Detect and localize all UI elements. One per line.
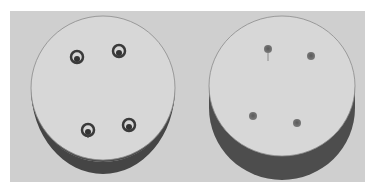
right-hole-4 [293, 119, 301, 127]
right-disc-top-face [209, 16, 355, 156]
figure-canvas [0, 0, 373, 194]
right-disc [209, 16, 355, 180]
left-disc [31, 16, 175, 174]
right-hole-3 [249, 112, 257, 120]
right-hole-2 [307, 52, 315, 60]
left-disc-top-face [31, 16, 175, 160]
